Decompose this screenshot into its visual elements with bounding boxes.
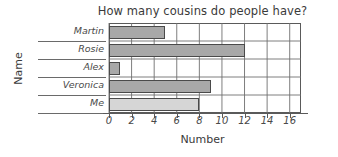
x-axis-title: Number xyxy=(95,133,310,146)
x-tick-label-0: 0 xyxy=(99,115,119,126)
x-tick-label-14: 14 xyxy=(257,115,277,126)
x-tick-label-2: 2 xyxy=(122,115,142,126)
x-tick-label-4: 4 xyxy=(144,115,164,126)
y-label-underline xyxy=(38,41,106,42)
chart-title: How many cousins do people have? xyxy=(95,4,310,18)
plot-area xyxy=(109,23,301,113)
x-tick-label-10: 10 xyxy=(212,115,232,126)
y-label-underline xyxy=(38,59,106,60)
x-tick-label-6: 6 xyxy=(167,115,187,126)
x-axis-line xyxy=(103,113,308,114)
bar-martin xyxy=(109,26,165,39)
y-axis-title: Name xyxy=(12,39,25,99)
y-tick-label-me: Me xyxy=(40,97,104,108)
y-label-underline xyxy=(38,95,106,96)
y-tick-label-alex: Alex xyxy=(40,61,104,72)
y-label-underline xyxy=(38,77,106,78)
bar-me xyxy=(109,98,199,111)
x-tick-label-12: 12 xyxy=(235,115,255,126)
x-tick-label-8: 8 xyxy=(189,115,209,126)
bar-rosie xyxy=(109,44,245,57)
bar-alex xyxy=(109,62,120,75)
bar-chart: How many cousins do people have? Name Ma… xyxy=(0,0,338,157)
y-tick-label-veronica: Veronica xyxy=(40,79,104,90)
y-label-underline xyxy=(38,113,106,114)
y-tick-label-rosie: Rosie xyxy=(40,43,104,54)
bar-veronica xyxy=(109,80,211,93)
y-tick-label-martin: Martin xyxy=(40,25,104,36)
x-tick-label-16: 16 xyxy=(280,115,300,126)
